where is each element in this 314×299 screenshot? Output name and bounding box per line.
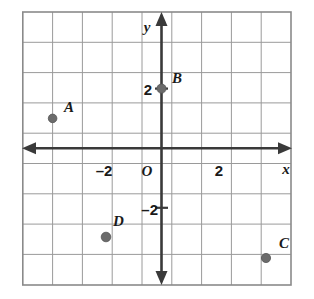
data-point-d-label: D <box>112 213 124 229</box>
data-point-a-label: A <box>63 99 74 115</box>
x-axis-name-label: x <box>281 161 290 177</box>
y-tick-label-pos2: 2 <box>144 81 152 98</box>
data-point-c-label: C <box>279 235 290 251</box>
data-point-b-label: B <box>171 70 182 86</box>
data-point-c[interactable] <box>261 253 270 262</box>
origin-label: O <box>142 163 153 179</box>
y-axis-name-label: y <box>142 19 151 35</box>
data-point-d[interactable] <box>101 232 111 242</box>
coordinate-plane-svg: –2 2 2 –2 O x y A B C D <box>0 0 314 299</box>
x-tick-label-neg2: –2 <box>96 162 113 179</box>
coordinate-plane-figure: –2 2 2 –2 O x y A B C D <box>0 0 314 299</box>
data-point-a[interactable] <box>48 114 57 123</box>
x-tick-label-pos2: 2 <box>215 162 223 179</box>
y-tick-label-neg2: –2 <box>141 201 158 218</box>
data-point-b[interactable] <box>157 84 166 93</box>
